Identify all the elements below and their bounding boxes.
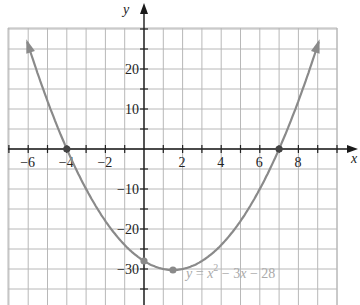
parabola-chart: −6−4−22468 2010−10−20−30 y x y = x2 − 3x… (0, 0, 360, 305)
curve-arrowheads (26, 39, 319, 54)
x-tick-label: −2 (97, 155, 112, 170)
parabola-curve (27, 42, 319, 270)
y-axis-label: y (121, 2, 130, 17)
y-tick-label: −10 (117, 182, 139, 197)
x-intercept-point (63, 145, 70, 152)
x-tick-label: −6 (20, 155, 35, 170)
x-tick-label: 8 (294, 155, 301, 170)
equation-label: y = x2 − 3x − 28 (184, 262, 275, 281)
x-tick-label: 4 (217, 155, 224, 170)
x-tick-label: 2 (179, 155, 186, 170)
y-tick-label: 10 (125, 102, 139, 117)
vertex-point (169, 266, 176, 273)
y-tick-label: −30 (117, 262, 139, 277)
x-tick-label: 6 (256, 155, 263, 170)
y-tick-label: 20 (125, 62, 139, 77)
y-tick-label: −20 (117, 222, 139, 237)
x-intercept-point (276, 145, 283, 152)
x-axis-label: x (350, 151, 358, 166)
grid (8, 28, 337, 305)
y-intercept-point (140, 257, 147, 264)
x-tick-labels: −6−4−22468 (20, 155, 301, 170)
